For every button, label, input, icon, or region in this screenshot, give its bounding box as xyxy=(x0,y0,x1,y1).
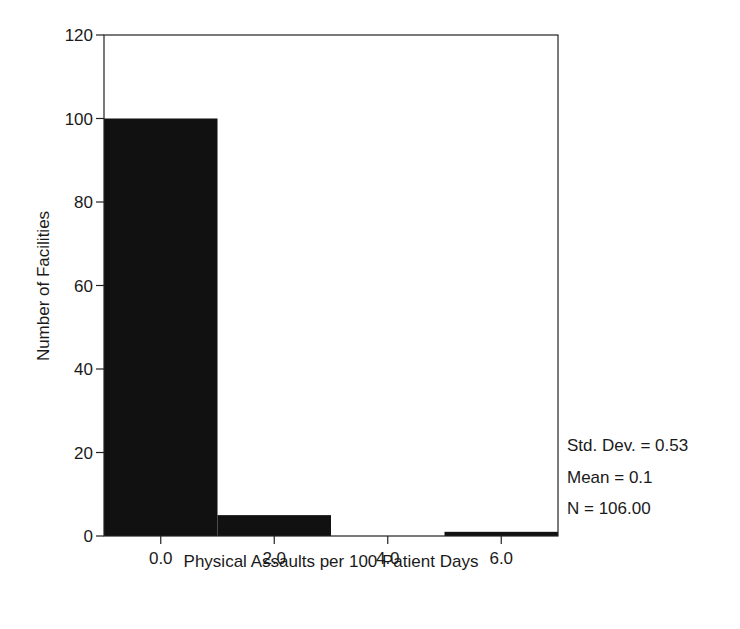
y-tick-label: 80 xyxy=(74,193,93,212)
y-tick-label: 20 xyxy=(74,444,93,463)
y-axis-label: Number of Facilities xyxy=(34,211,54,361)
y-tick-label: 0 xyxy=(84,527,93,546)
histogram-bar xyxy=(445,532,559,536)
y-tick-label: 60 xyxy=(74,277,93,296)
x-axis-label: Physical Assaults per 100 Patient Days xyxy=(104,552,558,572)
y-tick-label: 40 xyxy=(74,360,93,379)
histogram-chart: 020406080100120 0.02.04.06.0 xyxy=(0,0,740,629)
y-tick-label: 100 xyxy=(65,110,93,129)
histogram-bar xyxy=(104,119,218,537)
y-tick-label: 120 xyxy=(65,26,93,45)
y-axis: 020406080100120 xyxy=(65,26,104,546)
histogram-bars xyxy=(104,119,558,537)
histogram-bar xyxy=(218,515,332,536)
stat-mean: Mean = 0.1 xyxy=(567,468,653,488)
stat-std-dev: Std. Dev. = 0.53 xyxy=(567,436,688,456)
stat-n: N = 106.00 xyxy=(567,499,651,519)
